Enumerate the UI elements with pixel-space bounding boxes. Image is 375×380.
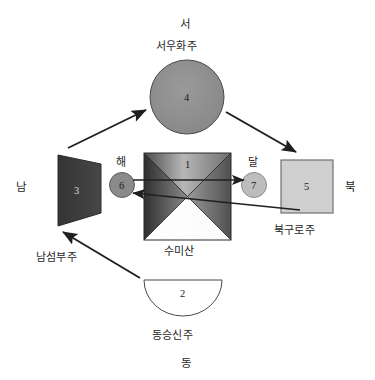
sun-number: 6 <box>119 180 124 191</box>
direction-label-south: 남 <box>16 181 27 193</box>
mount-sumeru-number: 1 <box>185 159 190 170</box>
diagram-canvas: 서 서우화주 남 남섬부주 북 북구로주 동승신주 동 수미산 해 달 4 3 … <box>0 0 375 380</box>
continent-4-number: 4 <box>184 92 189 103</box>
moon-number: 7 <box>251 180 256 191</box>
arrow-circle-to-square <box>226 112 296 152</box>
continent-2-name: 동승신주 <box>152 329 193 341</box>
moon-label: 달 <box>248 156 258 168</box>
continent-5-number: 5 <box>304 181 309 192</box>
continent-5-name: 북구로주 <box>274 224 315 236</box>
direction-label-west: 서 <box>180 18 191 30</box>
continent-3-name: 남섬부주 <box>36 251 77 263</box>
mount-sumeru-name: 수미산 <box>164 245 195 257</box>
direction-label-east: 동 <box>181 357 192 369</box>
direction-label-north: 북 <box>345 181 356 193</box>
continent-2-number: 2 <box>180 288 185 299</box>
continent-3-number: 3 <box>74 185 79 196</box>
diagram-graphics <box>0 0 375 380</box>
sun-label: 해 <box>116 156 126 168</box>
continent-3-trapezoid <box>58 155 101 226</box>
continent-4-name: 서우화주 <box>156 40 197 52</box>
arrow-trapezoid-to-circle <box>68 110 146 148</box>
